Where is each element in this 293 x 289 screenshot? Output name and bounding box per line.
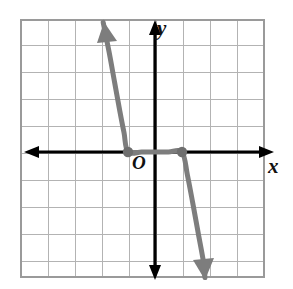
marked-point-right [177, 147, 187, 157]
origin-label: O [132, 153, 146, 172]
coordinate-plane-svg [0, 0, 293, 289]
graph-figure: y x O [0, 0, 293, 289]
x-axis-label: x [268, 156, 279, 177]
y-axis-label: y [157, 18, 166, 39]
curve-path [21, 20, 264, 277]
